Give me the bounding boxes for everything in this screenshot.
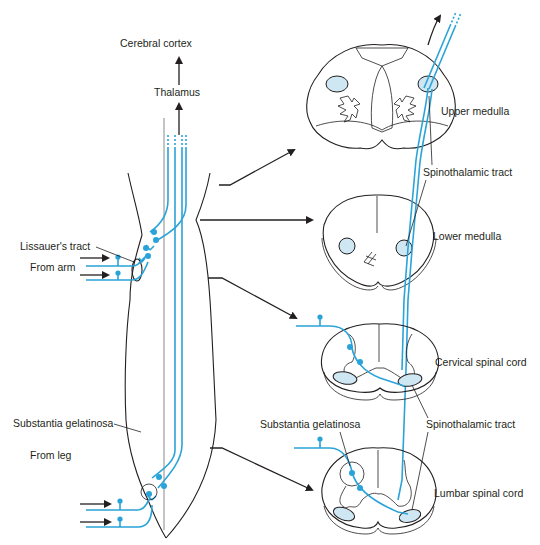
lumbar-cord-label: Lumbar spinal cord	[434, 487, 523, 499]
neuron-dot	[161, 483, 167, 489]
lumbar-neuron-dot	[357, 485, 363, 491]
spinothalamic-pathway-diagram: Cerebral cortex Thalamus	[0, 0, 540, 545]
substantia-gelatinosa-left-label: Substantia gelatinosa	[13, 417, 114, 429]
lower-medulla-label: Lower medulla	[433, 230, 501, 242]
cervical-tract-left	[332, 370, 358, 386]
thalamus-label: Thalamus	[154, 86, 200, 98]
lumbar-neuron-dot	[349, 470, 355, 476]
from-arm-label: From arm	[30, 261, 76, 273]
lumbar-tract-left	[332, 505, 357, 524]
connector-upper-medulla	[219, 150, 294, 185]
lumbar-cord-section: Lumbar spinal cord	[294, 436, 523, 534]
spinothalamic-lower-pointer-2	[412, 432, 428, 510]
upper-medulla-section: Upper medulla	[307, 12, 510, 149]
cervical-neuron-dot	[357, 359, 363, 365]
inferior-olive-right	[394, 96, 416, 122]
cervical-cord-section: Cervical spinal cord	[296, 314, 527, 400]
cervical-cord-label: Cervical spinal cord	[435, 356, 527, 368]
neuron-dot	[156, 474, 162, 480]
dorsal-root-ganglion-cell	[115, 270, 120, 275]
spinothalamic-tract-lower-label: Spinothalamic tract	[426, 418, 515, 430]
lissauers-tract-pointer	[96, 247, 134, 262]
dorsal-root-ganglion-cell	[117, 498, 122, 503]
upper-medulla-outline	[307, 45, 456, 149]
pyramid	[371, 66, 392, 132]
cerebral-cortex-label: Cerebral cortex	[120, 37, 193, 49]
spinothalamic-fiber-exit-1-continuation	[450, 12, 456, 26]
cervical-ganglion-cell	[317, 314, 322, 319]
arrow-ascending-upper-medulla	[428, 16, 440, 45]
upper-medulla-label: Upper medulla	[441, 105, 509, 117]
lumbar-input-fiber	[294, 448, 408, 514]
connector-cervical	[208, 278, 296, 318]
leg-fiber-b	[158, 445, 182, 488]
cord-left-outline	[125, 173, 166, 538]
neuron-dot	[153, 237, 159, 243]
left-labels: Lissauer's tract From arm Substantia gel…	[13, 240, 141, 461]
lissauers-tract-label: Lissauer's tract	[20, 240, 90, 252]
spinothalamic-column-fiber-lumbar	[398, 370, 406, 500]
spinothalamic-tract-lower-medulla	[396, 240, 412, 256]
from-leg-label: From leg	[30, 449, 72, 461]
fourth-ventricle-floor	[356, 48, 408, 66]
spinothalamic-column-fiber-1	[402, 88, 428, 370]
spinothalamic-upper-pointer-2	[406, 180, 426, 246]
cervical-neuron-dot	[347, 344, 353, 350]
arm-fiber-a	[150, 148, 168, 232]
dorsal-root-ganglion-cell	[117, 516, 122, 521]
spinal-cord-longitudinal	[80, 118, 216, 538]
cord-right-outline	[166, 173, 216, 538]
spinothalamic-fiber-exit-2	[429, 27, 455, 89]
neuron-dot	[151, 229, 157, 235]
tract-left-lower-medulla	[339, 238, 355, 254]
substantia-gelatinosa-right-label: Substantia gelatinosa	[260, 418, 361, 430]
level-connectors	[200, 150, 312, 490]
substantia-gelatinosa-right-pointer	[340, 432, 350, 466]
lumbar-ganglion-cell	[317, 436, 322, 441]
connector-lumbar	[210, 448, 312, 490]
upper-medulla-base-line	[316, 121, 448, 130]
brain-targets: Cerebral cortex Thalamus	[120, 37, 200, 135]
spinothalamic-tract-upper-label: Spinothalamic tract	[423, 166, 512, 178]
decussation-marks	[364, 252, 376, 266]
tract-left-upper-medulla	[326, 76, 348, 92]
spinothalamic-lower-pointer-1	[412, 385, 428, 418]
spinothalamic-fiber-exit-2-continuation	[455, 13, 461, 27]
inferior-olive-left	[338, 96, 360, 122]
